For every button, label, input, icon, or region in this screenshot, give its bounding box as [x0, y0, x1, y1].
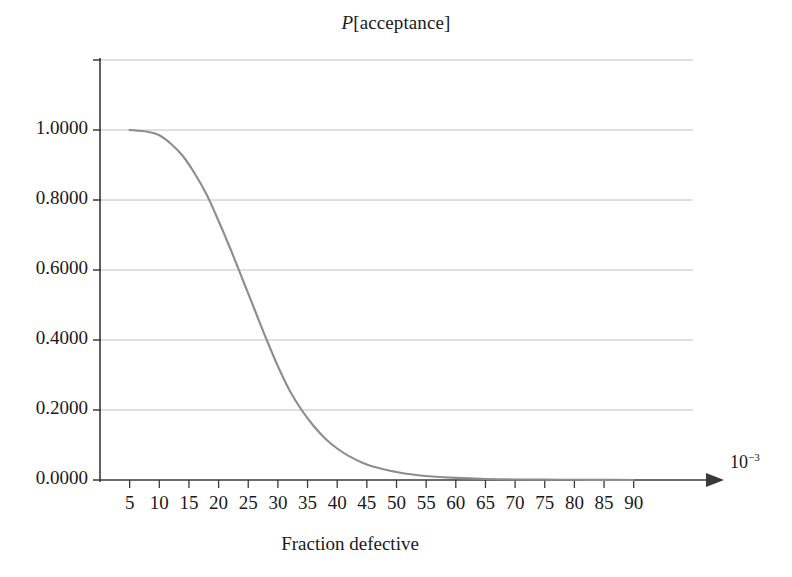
x-axis-title: Fraction defective	[100, 533, 600, 555]
x-axis-unit-exponent: −3	[748, 451, 760, 463]
chart-figure: P[acceptance] 0.00000.20000.40000.60000.…	[0, 0, 792, 577]
x-axis-unit-mantissa: 10	[730, 452, 748, 472]
x-axis-arrowhead	[706, 473, 724, 487]
y-tick-label: 0.8000	[2, 187, 88, 209]
y-tick-label: 1.0000	[2, 117, 88, 139]
x-tick-marks-group	[130, 480, 634, 488]
y-tick-label: 0.6000	[2, 257, 88, 279]
gridlines-group	[100, 60, 693, 410]
y-tick-label: 0.0000	[2, 467, 88, 489]
y-tick-label: 0.2000	[2, 397, 88, 419]
x-tick-label: 90	[614, 492, 654, 514]
x-axis-unit-label: 10−3	[730, 452, 760, 473]
plot-canvas	[0, 0, 792, 577]
oc-curve	[130, 130, 634, 480]
y-tick-label: 0.4000	[2, 327, 88, 349]
